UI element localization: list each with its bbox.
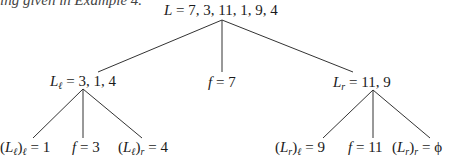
right-left-leaf: (Lr)ℓ = 9 bbox=[275, 138, 325, 156]
edge-left-left bbox=[33, 89, 83, 138]
node-values: 3 bbox=[92, 139, 100, 155]
node-values: 11, 9 bbox=[361, 74, 390, 90]
outer-sub: r bbox=[141, 146, 145, 156]
node-values: 4 bbox=[160, 139, 168, 155]
node-values: 11 bbox=[368, 139, 382, 155]
right-mid-leaf: f = 11 bbox=[348, 138, 383, 156]
node-values: 9 bbox=[317, 139, 325, 155]
outer-sub: ℓ bbox=[23, 146, 27, 156]
equals-sign: = bbox=[148, 139, 156, 155]
right-right-leaf: (Lr)r = ϕ bbox=[392, 138, 442, 156]
left-child-node: Lℓ = 3, 1, 4 bbox=[50, 72, 116, 90]
left-right-leaf: (Lℓ)r = 4 bbox=[118, 138, 168, 156]
edge-root-right bbox=[222, 20, 353, 72]
equals-sign: = bbox=[66, 73, 74, 89]
left-mid-leaf: f = 3 bbox=[72, 138, 100, 156]
right-child-node: Lr = 11, 9 bbox=[333, 73, 391, 91]
equals-sign: = bbox=[422, 139, 430, 155]
edge-right-left bbox=[323, 90, 373, 138]
outer-sub: ℓ bbox=[297, 146, 301, 156]
node-sub: ℓ bbox=[58, 80, 62, 91]
equals-sign: = bbox=[349, 74, 357, 90]
root-node: L = 7, 3, 11, 1, 9, 4 bbox=[164, 1, 278, 19]
equals-sign: = bbox=[356, 139, 364, 155]
node-values: 7 bbox=[228, 74, 236, 90]
node-values: ϕ bbox=[434, 139, 442, 155]
equals-sign: = bbox=[305, 139, 313, 155]
node-var: f bbox=[348, 139, 352, 155]
equals-sign: = bbox=[30, 139, 38, 155]
root-values: 7, 3, 11, 1, 9, 4 bbox=[188, 2, 277, 18]
equals-sign: = bbox=[80, 139, 88, 155]
equals-sign: = bbox=[176, 2, 184, 18]
root-var: L bbox=[164, 2, 172, 18]
node-values: 3, 1, 4 bbox=[78, 73, 116, 89]
left-left-leaf: (Lℓ)ℓ = 1 bbox=[0, 138, 50, 156]
outer-sub: r bbox=[414, 146, 418, 156]
node-var: f bbox=[208, 74, 212, 90]
equals-sign: = bbox=[216, 74, 224, 90]
node-var: f bbox=[72, 139, 76, 155]
node-values: 1 bbox=[43, 139, 51, 155]
middle-child-node: f = 7 bbox=[208, 73, 236, 91]
edge-left-right bbox=[83, 89, 142, 138]
edge-root-left bbox=[98, 20, 222, 72]
edge-right-right bbox=[373, 90, 430, 138]
node-sub: r bbox=[341, 81, 345, 92]
